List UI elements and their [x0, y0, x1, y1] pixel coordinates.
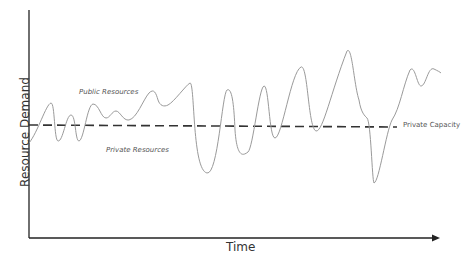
demand-diagram: [0, 0, 467, 269]
x-axis-label: Time: [226, 240, 255, 254]
private-capacity-label: Private Capacity: [403, 121, 460, 129]
private-resources-label: Private Resources: [106, 146, 169, 154]
y-axis-label: Resource Demand: [18, 77, 32, 187]
x-axis-arrow-icon: [432, 235, 440, 242]
public-resources-label: Public Resources: [79, 88, 138, 96]
demand-curve: [29, 50, 441, 183]
